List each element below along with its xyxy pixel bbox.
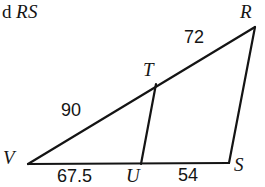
measure-label-us: 54 bbox=[178, 166, 198, 184]
edge-rs-line bbox=[229, 27, 255, 163]
measure-label-vu: 67.5 bbox=[57, 167, 92, 185]
edge-tu-line bbox=[141, 84, 156, 164]
vertex-label-v: V bbox=[3, 148, 15, 167]
edge-vs-line bbox=[28, 163, 229, 164]
measure-label-vt: 90 bbox=[61, 101, 81, 119]
edge-vr-line bbox=[28, 27, 255, 164]
vertex-label-u: U bbox=[126, 166, 140, 185]
measure-label-tr: 72 bbox=[184, 28, 204, 46]
triangle-diagram bbox=[0, 0, 265, 187]
vertex-label-t: T bbox=[143, 60, 154, 79]
vertex-label-r: R bbox=[240, 2, 252, 21]
geometry-problem-figure: dRS R T V U S 72 90 67.5 54 bbox=[0, 0, 265, 187]
vertex-label-s: S bbox=[234, 155, 244, 174]
